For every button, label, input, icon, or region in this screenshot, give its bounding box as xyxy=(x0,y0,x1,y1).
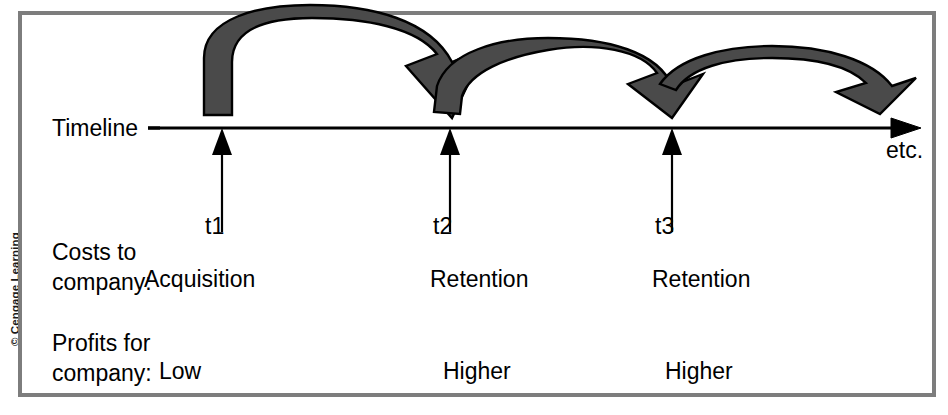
tick-label-t3: t3 xyxy=(655,214,674,238)
tick-label-t2: t2 xyxy=(433,214,452,238)
costs-row-heading: Costs to company: xyxy=(52,240,152,294)
profits-row-heading: Profits for company: xyxy=(52,331,152,385)
etc-label: etc. xyxy=(886,138,923,162)
profits-cell-t1: Low xyxy=(159,359,201,383)
profits-row-heading-line1: Profits for xyxy=(52,331,152,355)
profits-cell-t3: Higher xyxy=(665,359,733,383)
timeline-axis xyxy=(148,118,921,138)
timeline-axis-arrowhead xyxy=(891,118,921,138)
tick-pointer-t2-head xyxy=(440,128,460,155)
arc-t2-t3 xyxy=(434,38,703,118)
arc-t2-t3-body xyxy=(434,38,703,118)
tick-pointer-t1-head xyxy=(212,128,232,155)
timeline-label: Timeline xyxy=(52,116,138,140)
profits-cell-t2: Higher xyxy=(443,359,511,383)
costs-row-heading-line2: company: xyxy=(52,270,152,294)
costs-cell-t2: Retention xyxy=(430,267,528,291)
tick-label-t1: t1 xyxy=(205,214,224,238)
tick-pointer-t3-head xyxy=(662,128,682,155)
costs-row-heading-line1: Costs to xyxy=(52,240,152,264)
costs-cell-t3: Retention xyxy=(652,267,750,291)
costs-cell-t1: Acquisition xyxy=(144,267,255,291)
customer-lifecycle-timeline-figure: © Cengage Learning xyxy=(0,0,948,415)
profits-row-heading-line2: company: xyxy=(52,361,152,385)
